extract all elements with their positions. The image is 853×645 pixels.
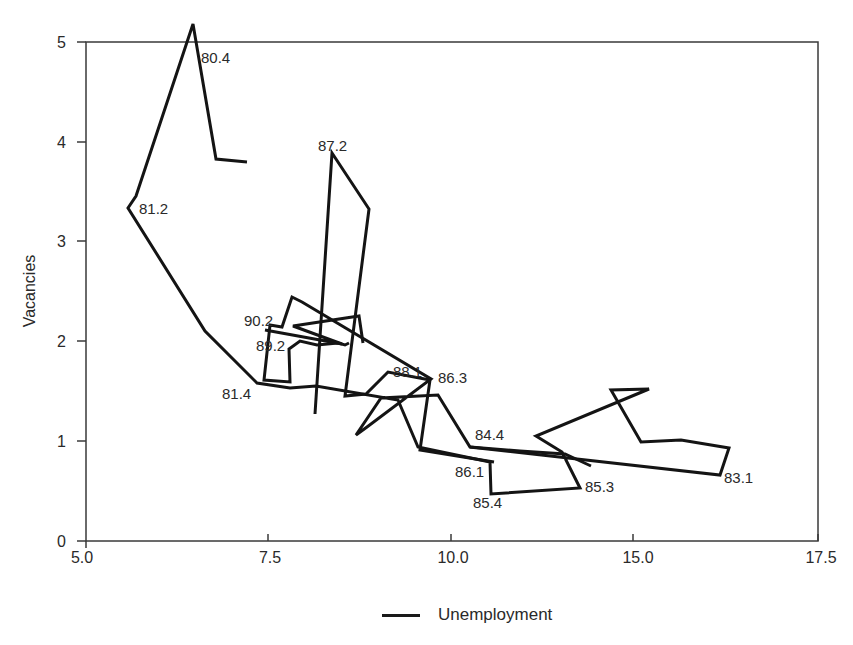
point-label-86-3: 86.3 bbox=[438, 369, 467, 386]
series-line bbox=[128, 24, 729, 494]
point-label-88-1: 88.1 bbox=[393, 363, 422, 380]
chart-canvas: 5 4 3 2 1 0 5.0 7.5 10.0 15.0 17.5 Vacan… bbox=[0, 0, 853, 645]
legend-line-swatch bbox=[382, 614, 420, 617]
y-axis-ticks bbox=[77, 42, 86, 541]
x-tick-label: 7.5 bbox=[259, 549, 281, 566]
plot-frame bbox=[86, 42, 818, 541]
y-tick-label: 2 bbox=[57, 333, 66, 350]
legend: Unemployment bbox=[382, 605, 552, 625]
point-label-85-3: 85.3 bbox=[585, 478, 614, 495]
x-tick-label: 5.0 bbox=[71, 549, 93, 566]
x-tick-label: 15.0 bbox=[622, 549, 653, 566]
y-axis-title: Vacancies bbox=[21, 255, 38, 328]
point-label-86-1: 86.1 bbox=[455, 463, 484, 480]
point-label-80-4: 80.4 bbox=[201, 49, 230, 66]
point-label-81-2: 81.2 bbox=[139, 200, 168, 217]
point-label-81-4: 81.4 bbox=[222, 385, 251, 402]
y-tick-label: 3 bbox=[57, 233, 66, 250]
x-tick-label: 17.5 bbox=[805, 549, 836, 566]
point-label-90-2: 90.2 bbox=[244, 312, 273, 329]
x-tick-label: 10.0 bbox=[437, 549, 468, 566]
y-axis-labels: 5 4 3 2 1 0 bbox=[57, 34, 66, 550]
legend-label: Unemployment bbox=[438, 605, 552, 625]
x-axis-labels: 5.0 7.5 10.0 15.0 17.5 bbox=[71, 549, 837, 566]
y-tick-label: 1 bbox=[57, 433, 66, 450]
y-tick-label: 4 bbox=[57, 134, 66, 151]
series-line-tail bbox=[470, 447, 591, 466]
point-label-87-2: 87.2 bbox=[318, 137, 347, 154]
point-label-83-1: 83.1 bbox=[724, 469, 753, 486]
y-tick-label: 0 bbox=[57, 533, 66, 550]
point-label-84-4: 84.4 bbox=[475, 426, 504, 443]
y-tick-label: 5 bbox=[57, 34, 66, 51]
point-label-85-4: 85.4 bbox=[473, 494, 502, 511]
series-unemployment bbox=[128, 24, 729, 494]
point-label-89-2: 89.2 bbox=[256, 337, 285, 354]
